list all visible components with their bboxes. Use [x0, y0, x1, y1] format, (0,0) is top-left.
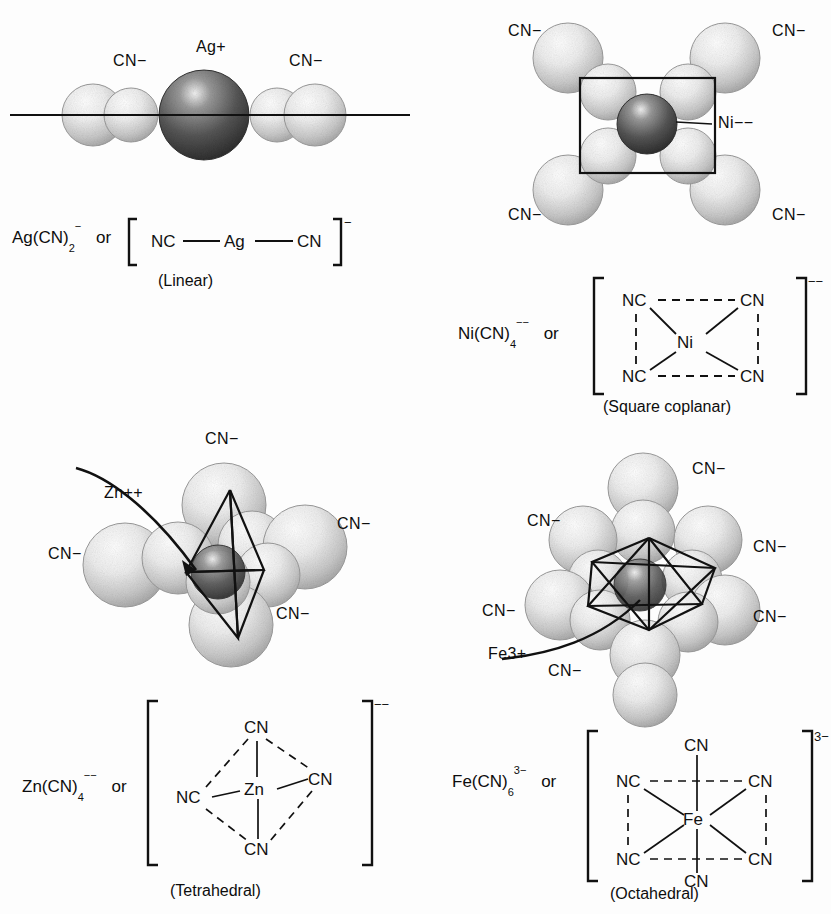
octa-ligand-label-right: CN−	[753, 538, 787, 556]
linear-ligand-label-left: CN−	[113, 52, 147, 70]
svg-text:−−: −−	[374, 697, 389, 712]
square-ligand-label-top-right: CN−	[772, 22, 806, 40]
square-ligand-label-bottom-right: CN−	[772, 206, 806, 224]
ligand-sphere-cn-bottom	[610, 620, 680, 727]
panel-square-coplanar: CN− CN− CN− CN− Ni−− Ni(CN)4−− Ni(CN)4−−…	[440, 0, 831, 420]
linear-ligand-label-right: CN−	[289, 52, 323, 70]
octa-ligand-label-bottom: CN−	[548, 662, 582, 680]
octa-ligand-label-upper-left: CN−	[527, 512, 561, 530]
svg-text:Fe: Fe	[683, 810, 703, 829]
svg-text:NC: NC	[176, 788, 201, 807]
svg-text:NC: NC	[622, 367, 647, 386]
square-or-text: or	[544, 324, 559, 343]
tetra-ligand-label-right: CN−	[337, 515, 371, 533]
square-structure-drawing: NC CN NC CN Ni −−	[588, 272, 818, 402]
panel-linear: CN− Ag+ CN− Ag(CN)2− Ag(CN)2− or NC Ag C…	[0, 0, 420, 300]
octa-formula: Fe(CN)6 3− Fe(CN)63− or	[452, 770, 556, 793]
svg-text:Ag: Ag	[224, 232, 245, 251]
panel-octahedral: CN− CN− CN− CN− CN− CN− Fe3+ Fe(CN)6 3− …	[440, 440, 831, 914]
ni-leader-line	[676, 122, 712, 124]
octa-structure-drawing: CN NC CN Fe NC CN CN 3−	[580, 725, 830, 890]
ligand-sphere-cn-bottom-right	[660, 128, 760, 225]
svg-text:3−: 3−	[814, 729, 829, 744]
square-ligand-label-bottom-left: CN−	[508, 206, 542, 224]
square-formula: Ni(CN)4−− Ni(CN)4−− or	[458, 322, 559, 345]
tetra-caption: (Tetrahedral)	[170, 882, 261, 900]
ligand-sphere-cn-top-left	[533, 23, 636, 120]
linear-or-text: or	[96, 228, 111, 247]
svg-text:CN: CN	[684, 736, 709, 755]
octa-caption: (Octahedral)	[610, 885, 699, 903]
svg-text:CN: CN	[740, 367, 765, 386]
octa-ligand-label-lower-left: CN−	[482, 602, 516, 620]
octa-center-label: Fe3+	[488, 645, 527, 663]
panel-tetrahedral: CN− CN− CN− CN− Zn++ Zn(CN)4−− Zn(CN)4−−…	[0, 420, 420, 914]
svg-text:CN: CN	[748, 772, 773, 791]
svg-text:CN: CN	[748, 850, 773, 869]
svg-text:Zn: Zn	[244, 780, 264, 799]
svg-text:CN: CN	[740, 291, 765, 310]
octa-ligand-label-lower-right: CN−	[753, 608, 787, 626]
octa-or-text: or	[541, 772, 556, 791]
central-sphere-ni	[617, 94, 677, 154]
tetra-structure-drawing: CN NC Zn CN CN −−	[140, 695, 390, 875]
svg-text:NC: NC	[616, 772, 641, 791]
svg-text:NC: NC	[616, 850, 641, 869]
octa-ligand-label-top: CN−	[692, 460, 726, 478]
svg-text:NC: NC	[622, 291, 647, 310]
svg-text:CN: CN	[244, 840, 269, 859]
linear-structure-drawing: NC Ag CN −	[125, 213, 355, 271]
ligand-sphere-cn-bottom-left	[533, 128, 636, 225]
square-center-label: Ni−−	[718, 114, 753, 132]
tetra-center-label: Zn++	[104, 484, 143, 502]
tetra-or-text: or	[111, 777, 126, 796]
svg-text:CN: CN	[244, 718, 269, 737]
tetra-ligand-label-top: CN−	[205, 430, 239, 448]
linear-center-label: Ag+	[196, 38, 226, 56]
linear-caption: (Linear)	[158, 272, 213, 290]
tetra-ligand-label-left: CN−	[48, 545, 82, 563]
linear-formula: Ag(CN)2− Ag(CN)2− or	[12, 226, 111, 249]
svg-text:CN: CN	[297, 232, 322, 251]
svg-text:Ni: Ni	[677, 333, 693, 352]
square-ligand-label-top-left: CN−	[508, 22, 542, 40]
tetra-formula: Zn(CN)4−− Zn(CN)4−− or	[22, 775, 127, 798]
tetra-ligand-label-bottom: CN−	[276, 605, 310, 623]
svg-text:NC: NC	[151, 232, 176, 251]
ligand-sphere-cn-top-right	[660, 23, 760, 120]
svg-text:−: −	[344, 215, 352, 230]
square-caption: (Square coplanar)	[603, 398, 731, 416]
svg-text:CN: CN	[308, 770, 333, 789]
svg-text:−−: −−	[808, 274, 823, 289]
